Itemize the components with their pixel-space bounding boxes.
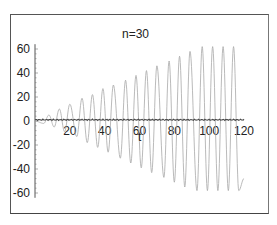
y-tick-label: 40 bbox=[17, 66, 31, 80]
y-tick-label: 20 bbox=[17, 90, 31, 104]
chart-svg: n=30 6040200-20-40-60 20406080100120 t bbox=[0, 0, 277, 225]
response-curve bbox=[35, 47, 244, 191]
y-tick-label: -60 bbox=[13, 186, 31, 200]
forcing-curve bbox=[35, 119, 244, 120]
chart-title: n=30 bbox=[122, 27, 149, 41]
y-axis: 6040200-20-40-60 bbox=[13, 42, 38, 200]
x-tick-label: 80 bbox=[168, 124, 182, 138]
y-tick-label: 60 bbox=[17, 42, 31, 56]
y-tick-label: 0 bbox=[23, 114, 30, 128]
y-tick-label: -20 bbox=[13, 138, 31, 152]
x-tick-label: 120 bbox=[234, 124, 254, 138]
y-tick-label: -40 bbox=[13, 162, 31, 176]
